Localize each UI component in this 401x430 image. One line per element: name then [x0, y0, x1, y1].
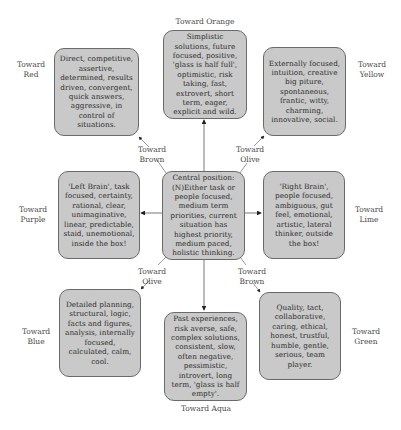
label-diag-upper-left: Toward Brown: [135, 145, 169, 164]
label-toward-lime: Toward Lime: [350, 205, 388, 224]
box-blue: Detailed planning, structural, logic, fa…: [59, 289, 141, 377]
box-purple: 'Left Brain', task focused, certainty, r…: [58, 171, 140, 259]
label-toward-orange: Toward Orange: [165, 17, 245, 27]
label-diag-lower-left: Toward Olive: [135, 267, 169, 286]
label-toward-blue: Toward Blue: [18, 327, 54, 346]
label-toward-green: Toward Green: [347, 327, 385, 346]
label-diag-lower-right: Toward Brown: [235, 267, 269, 286]
box-green: Quality, tact, collaborative, caring, et…: [259, 292, 341, 380]
box-lime: 'Right Brain', people focused, ambiguous…: [263, 171, 345, 259]
box-orange: Simplistic solutions, future focused, po…: [163, 30, 247, 119]
box-red: Direct, competitive, assertive, determin…: [54, 48, 139, 136]
box-center: Central position: (N)Either task or peop…: [162, 171, 245, 260]
label-toward-yellow: Toward Yellow: [352, 60, 392, 79]
label-diag-upper-right: Toward Olive: [233, 145, 267, 164]
box-aqua: Past experiences, risk averse, safe, com…: [164, 312, 247, 401]
label-toward-aqua: Toward Aqua: [165, 404, 247, 414]
label-toward-red: Toward Red: [14, 60, 48, 79]
label-toward-purple: Toward Purple: [14, 205, 52, 224]
box-yellow: Externally focused, intuition, creative …: [263, 47, 346, 136]
